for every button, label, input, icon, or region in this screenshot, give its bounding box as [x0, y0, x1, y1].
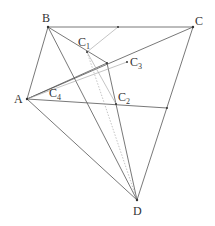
label-C1: C1: [78, 36, 90, 51]
point-D: [136, 199, 138, 201]
geometry-diagram: B C A D C1 C2 C3 C4: [0, 0, 215, 226]
point-F: [166, 107, 168, 109]
label-C4: C4: [49, 87, 61, 102]
diagram-lines: [0, 0, 215, 226]
label-C2-sub: 2: [126, 97, 130, 106]
label-D: D: [133, 205, 142, 217]
label-C3: C3: [130, 56, 142, 71]
label-C4-main: C: [49, 86, 57, 100]
diagonal-BD: [48, 27, 137, 200]
point-E: [106, 62, 108, 64]
edge-AB: [27, 27, 48, 99]
line-C1-P: [87, 27, 118, 52]
point-A: [26, 98, 28, 100]
point-C: [192, 26, 194, 28]
label-C: C: [195, 15, 203, 27]
label-C1-main: C: [78, 35, 86, 49]
label-A: A: [14, 93, 23, 105]
point-C2: [115, 103, 117, 105]
label-C4-sub: 4: [57, 93, 61, 102]
line-E-D: [107, 63, 137, 200]
label-C2: C2: [118, 91, 130, 106]
label-C1-sub: 1: [86, 42, 90, 51]
label-B: B: [42, 12, 50, 24]
label-C2-main: C: [118, 90, 126, 104]
label-C3-sub: 3: [138, 62, 142, 71]
point-C3: [126, 61, 128, 63]
line-A-F: [27, 99, 167, 108]
point-B: [47, 26, 49, 28]
edge-CD: [137, 27, 193, 200]
edge-AD: [27, 99, 137, 200]
line-A-E: [27, 63, 107, 99]
label-C3-main: C: [130, 55, 138, 69]
point-P: [117, 26, 119, 28]
line-A-C3: [27, 62, 127, 99]
